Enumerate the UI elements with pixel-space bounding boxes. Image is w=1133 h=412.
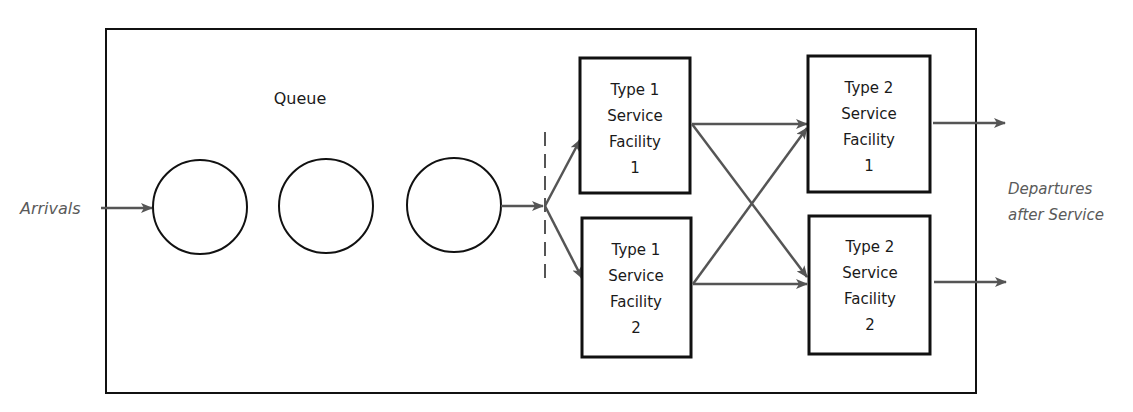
arrivals-label: Arrivals bbox=[19, 199, 81, 218]
type1-facility-2-line2: Service bbox=[608, 267, 663, 285]
type2-facility-2: Type 2 Service Facility 2 bbox=[809, 216, 930, 354]
type2-facility-2-line3: Facility bbox=[844, 290, 896, 308]
queue-label: Queue bbox=[274, 89, 327, 108]
type2-facility-1-line2: Service bbox=[841, 105, 896, 123]
type1-facility-1-line1: Type 1 bbox=[610, 81, 660, 99]
type1-facility-2: Type 1 Service Facility 2 bbox=[582, 218, 691, 357]
type2-facility-1-line3: Facility bbox=[843, 131, 895, 149]
departures-label-line1: Departures bbox=[1008, 180, 1092, 198]
queue-customer-1 bbox=[153, 160, 247, 254]
type1-facility-1: Type 1 Service Facility 1 bbox=[580, 58, 690, 193]
type2-facility-1-line1: Type 2 bbox=[844, 79, 894, 97]
type1-facility-2-line1: Type 1 bbox=[611, 241, 661, 259]
type1-facility-2-line3: Facility bbox=[610, 293, 662, 311]
queue-customer-3 bbox=[407, 158, 501, 252]
departures-label-line2: after Service bbox=[1008, 206, 1104, 224]
queueing-system-diagram: Queue Arrivals Type 1 Service Facility 1… bbox=[0, 0, 1133, 412]
type1-facility-1-line2: Service bbox=[607, 107, 662, 125]
type1-facility-2-line4: 2 bbox=[631, 319, 641, 337]
type2-facility-1: Type 2 Service Facility 1 bbox=[808, 56, 930, 192]
type1-facility-1-line4: 1 bbox=[630, 159, 640, 177]
arrow-t1f2-to-t2f1 bbox=[693, 128, 807, 284]
arrow-to-type1-facility-2 bbox=[545, 206, 582, 278]
type2-facility-2-line1: Type 2 bbox=[845, 238, 895, 256]
type1-facility-1-line3: Facility bbox=[609, 133, 661, 151]
arrow-to-type1-facility-1 bbox=[545, 140, 580, 206]
arrow-t1f1-to-t2f2 bbox=[692, 124, 807, 277]
queue-customer-2 bbox=[279, 159, 373, 253]
type2-facility-2-line2: Service bbox=[842, 264, 897, 282]
type2-facility-1-line4: 1 bbox=[864, 157, 874, 175]
type2-facility-2-line4: 2 bbox=[865, 316, 875, 334]
